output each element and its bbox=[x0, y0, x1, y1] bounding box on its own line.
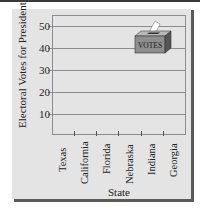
xtick-mark bbox=[141, 131, 142, 136]
xtick-label-texas: Texas bbox=[57, 148, 68, 172]
gridline-30 bbox=[52, 70, 186, 71]
y-axis-title: Electoral Votes for President bbox=[16, 2, 28, 128]
ytick-label-30: 30 bbox=[30, 65, 50, 76]
xtick-mark bbox=[118, 131, 119, 136]
ballot-box-icon: VOTES bbox=[133, 19, 173, 57]
xtick-label-indiana: Indiana bbox=[146, 144, 157, 176]
panel-shadow-bottom bbox=[14, 199, 194, 202]
ballot-box-label: VOTES bbox=[138, 41, 162, 50]
x-axis-title: State bbox=[108, 186, 130, 198]
gridline-20 bbox=[52, 92, 186, 93]
ytick-label-50: 50 bbox=[30, 21, 50, 32]
gridline-10 bbox=[52, 114, 186, 115]
top-rule bbox=[0, 0, 200, 2]
ytick-label-10: 10 bbox=[30, 109, 50, 120]
xtick-mark bbox=[96, 131, 97, 136]
ytick-label-20: 20 bbox=[30, 87, 50, 98]
panel-shadow-right bbox=[191, 10, 194, 202]
xtick-mark bbox=[74, 131, 75, 136]
xtick-mark bbox=[163, 131, 164, 136]
xtick-label-georgia: Georgia bbox=[168, 143, 179, 177]
ytick-label-40: 40 bbox=[30, 43, 50, 54]
xtick-label-florida: Florida bbox=[101, 144, 112, 174]
xtick-label-nebraska: Nebraska bbox=[124, 144, 135, 184]
xtick-label-california: California bbox=[79, 141, 90, 184]
